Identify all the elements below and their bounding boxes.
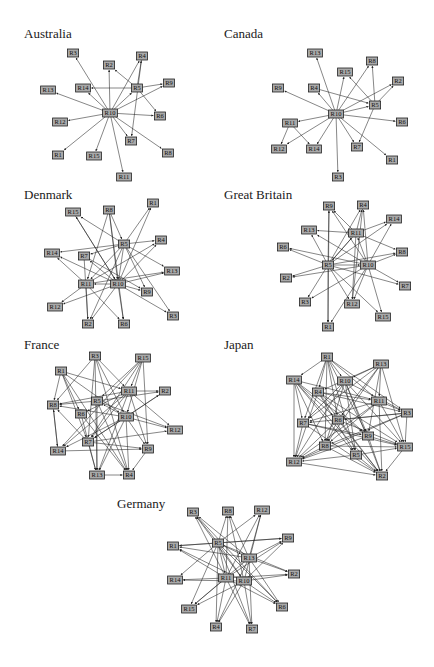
- node-r1: R1: [147, 199, 158, 207]
- node-r8: R8: [366, 57, 377, 65]
- node-label: R4: [125, 471, 133, 478]
- node-r2: R2: [82, 320, 93, 328]
- node-label: R3: [301, 298, 309, 305]
- edge-R10-R14: [183, 580, 244, 581]
- node-label: R11: [374, 397, 385, 404]
- edge-R5-R15: [356, 448, 397, 455]
- node-label: R3: [403, 409, 411, 416]
- node-r15: R15: [398, 443, 413, 451]
- node-r4: R4: [357, 201, 368, 209]
- node-r4: R4: [210, 623, 221, 631]
- network-canada: R13R8R15R2R9R4R5R10R6R11R12R14R7R1R3: [272, 49, 408, 181]
- node-r2: R2: [376, 472, 387, 480]
- edge-R11-R12: [129, 391, 169, 425]
- node-r3: R3: [67, 49, 78, 57]
- node-label: R7: [248, 625, 256, 632]
- node-label: R7: [299, 419, 307, 426]
- edge-R8-R15: [325, 446, 397, 447]
- node-r14: R14: [45, 249, 60, 257]
- node-r5: R5: [118, 240, 129, 248]
- node-label: R1: [149, 199, 157, 206]
- node-r10: R10: [361, 261, 376, 269]
- node-r3: R3: [299, 298, 310, 306]
- node-r14: R14: [307, 145, 322, 153]
- node-r15: R15: [87, 152, 102, 160]
- node-label: R1: [388, 156, 396, 163]
- node-r11: R11: [372, 397, 387, 405]
- edge-R15-R10: [127, 358, 143, 412]
- node-label: R8: [368, 57, 376, 64]
- node-label: R11: [351, 229, 362, 236]
- edge-R3-R6: [345, 413, 407, 419]
- node-r8: R8: [47, 401, 58, 409]
- node-r5: R5: [350, 451, 361, 459]
- node-label: R10: [105, 109, 116, 116]
- edge-R10-R14: [368, 224, 391, 265]
- node-label: R7: [80, 252, 88, 259]
- edge-R5-R4: [97, 401, 127, 470]
- node-label: R6: [398, 118, 406, 125]
- node-label: R12: [257, 506, 268, 513]
- node-label: R11: [285, 119, 296, 126]
- node-label: R13: [244, 554, 255, 561]
- node-r7: R7: [78, 252, 89, 260]
- node-label: R8: [224, 507, 232, 514]
- node-r10: R10: [111, 280, 126, 288]
- node-r14: R14: [168, 576, 183, 584]
- node-r11: R11: [122, 387, 137, 395]
- node-label: R1: [169, 542, 177, 549]
- node-r6: R6: [118, 320, 129, 328]
- node-label: R1: [57, 367, 65, 374]
- node-r2: R2: [103, 61, 114, 69]
- node-label: R3: [69, 49, 77, 56]
- node-r1: R1: [321, 353, 332, 361]
- node-label: R15: [89, 152, 100, 159]
- node-r11: R11: [349, 229, 364, 237]
- node-r7: R7: [125, 137, 136, 145]
- node-label: R14: [309, 145, 321, 152]
- node-r10: R10: [103, 109, 118, 117]
- node-label: R1: [323, 353, 331, 360]
- network-great-britain: R9R4R14R13R11R6R8R5R10R2R7R3R12R15R1: [277, 201, 410, 331]
- node-label: R9: [284, 534, 292, 541]
- node-r12: R12: [48, 303, 63, 311]
- edge-R5-R1: [124, 208, 149, 244]
- edge-R10-R9: [345, 381, 366, 431]
- node-r6: R6: [154, 112, 165, 120]
- node-label: R14: [78, 84, 90, 91]
- node-label: R10: [121, 413, 132, 420]
- node-r3: R3: [332, 173, 343, 181]
- node-label: R2: [394, 77, 402, 84]
- edge-R4-R9: [318, 392, 362, 431]
- node-r5: R5: [369, 101, 380, 109]
- node-r13: R13: [374, 360, 389, 368]
- node-label: R10: [340, 377, 351, 384]
- node-label: R7: [127, 137, 135, 144]
- edge-R11-R12: [352, 233, 356, 299]
- edge-R14-R7: [294, 380, 302, 418]
- node-label: R7: [353, 143, 361, 150]
- edge-R5-R7: [359, 105, 375, 142]
- node-label: R5: [352, 451, 360, 458]
- node-r6: R6: [396, 118, 407, 126]
- edge-R5-R3: [308, 265, 328, 297]
- edge-R10-R13: [100, 417, 127, 470]
- node-label: R6: [77, 410, 85, 417]
- node-r1: R1: [167, 542, 178, 550]
- node-r7: R7: [351, 143, 362, 151]
- node-r15: R15: [182, 605, 197, 613]
- edge-R10-R3: [336, 114, 338, 172]
- node-r9: R9: [323, 202, 334, 210]
- edge-R10-R13: [56, 93, 110, 113]
- node-r8: R8: [103, 206, 114, 214]
- node-label: R11: [124, 387, 135, 394]
- node-r5: R5: [322, 261, 333, 269]
- node-label: R15: [68, 208, 79, 215]
- node-r13: R13: [308, 49, 323, 57]
- edge-R13-R6: [249, 558, 279, 602]
- node-label: R8: [105, 206, 113, 213]
- node-r13: R13: [242, 554, 257, 562]
- node-label: R10: [113, 280, 124, 287]
- edge-R11-R2: [379, 401, 382, 471]
- node-label: R14: [289, 376, 301, 383]
